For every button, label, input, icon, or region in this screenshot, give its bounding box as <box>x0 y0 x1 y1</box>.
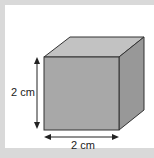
cube-figure <box>0 0 154 158</box>
cube-front-face <box>44 57 119 130</box>
height-label: 2 cm <box>11 86 35 98</box>
width-label: 2 cm <box>71 139 95 151</box>
height-arrow <box>34 57 40 129</box>
